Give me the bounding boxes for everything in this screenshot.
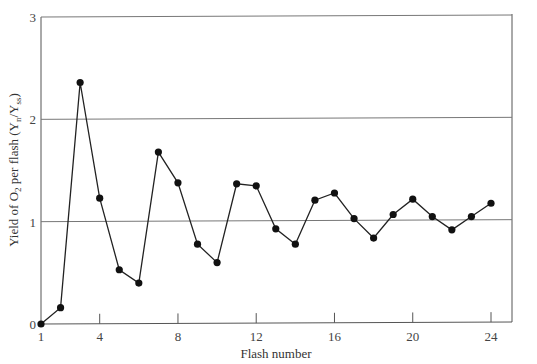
data-point [233, 180, 240, 187]
data-point [135, 279, 142, 286]
y-axis-tick-labels: 0123 [30, 10, 37, 332]
data-point [96, 195, 103, 202]
data-point [37, 320, 44, 327]
x-tick-label: 8 [175, 329, 182, 344]
data-point-markers [37, 79, 494, 328]
data-point [155, 148, 162, 155]
data-point [253, 182, 260, 189]
y-tick-label: 0 [30, 317, 37, 332]
data-point [468, 213, 475, 220]
data-point [213, 259, 220, 266]
y-tick-label: 1 [30, 215, 37, 230]
x-tick-label: 24 [485, 329, 499, 344]
y-axis-title: Yield of O2 per flash (Yn/Yss) [6, 93, 23, 247]
data-point [174, 179, 181, 186]
y-tick-label: 3 [30, 10, 37, 25]
data-point [390, 211, 397, 218]
data-point [448, 226, 455, 233]
data-point [57, 304, 64, 311]
x-axis-tick-labels: 14812162024 [38, 329, 498, 344]
data-point [331, 189, 338, 196]
x-tick-label: 4 [96, 329, 103, 344]
x-tick-label: 12 [250, 329, 263, 344]
data-point [370, 234, 377, 241]
x-tick-label: 20 [406, 329, 419, 344]
data-point [77, 79, 84, 86]
horizontal-gridlines [41, 15, 512, 222]
x-tick-label: 16 [328, 329, 342, 344]
data-point [487, 200, 494, 207]
data-point [350, 215, 357, 222]
data-point [429, 213, 436, 220]
data-point [292, 241, 299, 248]
gridline-1 [41, 220, 512, 222]
gridline-3 [41, 15, 512, 17]
plot-frame [41, 14, 512, 324]
y-tick-label: 2 [30, 112, 37, 127]
data-point [194, 241, 201, 248]
data-point [409, 196, 416, 203]
gridline-2 [41, 117, 512, 119]
data-point [272, 225, 279, 232]
oxygen-yield-line-chart: 14812162024 0123 Flash number Yield of O… [0, 0, 537, 364]
data-point [311, 197, 318, 204]
data-point [116, 266, 123, 273]
x-axis-title: Flash number [240, 346, 312, 361]
x-tick-label: 1 [38, 329, 45, 344]
